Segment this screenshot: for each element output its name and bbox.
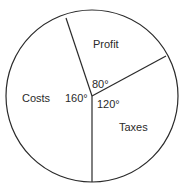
pie-chart: Profit Taxes Costs 80° 120° 160°	[0, 0, 181, 194]
slice-label-profit: Profit	[93, 38, 119, 50]
angle-label-taxes: 120°	[97, 98, 120, 110]
angle-label-profit: 80°	[92, 78, 109, 90]
angle-label-costs: 160°	[65, 92, 88, 104]
slice-label-taxes: Taxes	[119, 121, 148, 133]
slice-label-costs: Costs	[22, 92, 51, 104]
